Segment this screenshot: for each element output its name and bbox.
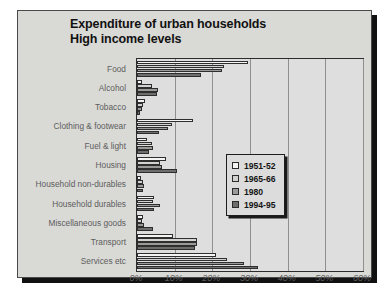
- bar: [137, 138, 147, 142]
- legend-swatch-icon: [232, 201, 239, 208]
- legend-swatch-icon: [232, 175, 239, 182]
- bar: [137, 107, 142, 111]
- bar: [137, 204, 160, 208]
- bar: [137, 65, 224, 69]
- y-axis-labels: FoodAlcoholTobaccoClothing & footwearFue…: [18, 58, 132, 272]
- bar: [137, 146, 153, 150]
- bar-group: [137, 213, 363, 232]
- bar: [137, 150, 149, 154]
- y-axis-tick-label: Services etc: [81, 256, 126, 266]
- bar: [137, 123, 172, 127]
- bar-group: [137, 117, 363, 136]
- y-axis-tick-label: Miscellaneous goods: [49, 218, 126, 228]
- bar: [137, 215, 143, 219]
- bar: [137, 219, 142, 223]
- bar-group: [137, 78, 363, 97]
- bar: [137, 80, 142, 84]
- y-axis-tick-label: Alcohol: [99, 83, 126, 93]
- bar: [137, 266, 258, 270]
- gridline-60: [363, 59, 364, 271]
- bar: [137, 242, 197, 246]
- chart-title: Expenditure of urban households: [70, 17, 360, 32]
- bar: [137, 127, 168, 131]
- bar: [137, 176, 141, 180]
- legend-label: 1951-52: [244, 161, 276, 171]
- bar: [137, 180, 143, 184]
- bar: [137, 227, 153, 231]
- legend-swatch-icon: [232, 162, 239, 169]
- x-axis-tick-label: 40%: [278, 273, 296, 283]
- x-axis-tick-label: 30%: [240, 273, 258, 283]
- bar: [137, 131, 159, 135]
- bar: [137, 88, 158, 92]
- bar-group: [137, 59, 363, 78]
- bar-group: [137, 98, 363, 117]
- bar: [137, 223, 144, 227]
- bar: [137, 73, 201, 77]
- legend-item[interactable]: 1965-66: [232, 172, 276, 185]
- bar: [137, 92, 157, 96]
- x-axis-tick-label: 50%: [315, 273, 333, 283]
- bar: [137, 142, 152, 146]
- bar: [137, 253, 216, 257]
- y-axis-tick-label: Household non-durables: [36, 179, 126, 189]
- bar: [137, 119, 193, 123]
- bar: [137, 169, 177, 173]
- chart-legend[interactable]: 1951-521965-6619801994-95: [226, 154, 285, 216]
- legend-label: 1965-66: [244, 174, 276, 184]
- y-axis-tick-label: Tobacco: [95, 102, 126, 112]
- bar-group: [137, 252, 363, 271]
- legend-label: 1994-95: [244, 200, 276, 210]
- bar: [137, 111, 140, 115]
- x-axis-tick-label: 10%: [165, 273, 183, 283]
- bar: [137, 61, 248, 65]
- legend-item[interactable]: 1994-95: [232, 198, 276, 211]
- y-axis-tick-label: Housing: [96, 160, 126, 170]
- bar: [137, 161, 160, 165]
- x-axis-tick-label: 20%: [202, 273, 220, 283]
- bar: [137, 200, 153, 204]
- bar: [137, 208, 154, 212]
- x-axis-labels: 0%10%20%30%40%50%60%: [136, 273, 364, 289]
- bar: [137, 234, 173, 238]
- y-axis-tick-label: Food: [107, 64, 126, 74]
- legend-item[interactable]: 1951-52: [232, 159, 276, 172]
- chart-subtitle: High income levels: [70, 32, 360, 47]
- bar-group: [137, 136, 363, 155]
- legend-item[interactable]: 1980: [232, 185, 276, 198]
- bar: [137, 184, 144, 188]
- y-axis-tick-label: Clothing & footwear: [54, 121, 126, 131]
- chart-figure: Expenditure of urban households High inc…: [17, 10, 372, 278]
- bar: [137, 69, 222, 73]
- x-axis-tick-label: 60%: [353, 273, 371, 283]
- bar: [137, 165, 162, 169]
- bar: [137, 262, 244, 266]
- y-axis-tick-label: Household durables: [52, 199, 126, 209]
- bar: [137, 246, 195, 250]
- bar: [137, 157, 166, 161]
- bar: [137, 189, 143, 193]
- legend-swatch-icon: [232, 188, 239, 195]
- bar: [137, 258, 227, 262]
- y-axis-tick-label: Transport: [91, 237, 126, 247]
- chart-title-block: Expenditure of urban households High inc…: [70, 17, 360, 46]
- bar: [137, 238, 197, 242]
- x-axis-tick-label: 0%: [129, 273, 142, 283]
- bar-group: [137, 232, 363, 251]
- legend-label: 1980: [244, 187, 263, 197]
- bar: [137, 84, 152, 88]
- bar: [137, 99, 145, 103]
- bar: [137, 103, 143, 107]
- y-axis-tick-label: Fuel & light: [84, 141, 126, 151]
- bar: [137, 196, 154, 200]
